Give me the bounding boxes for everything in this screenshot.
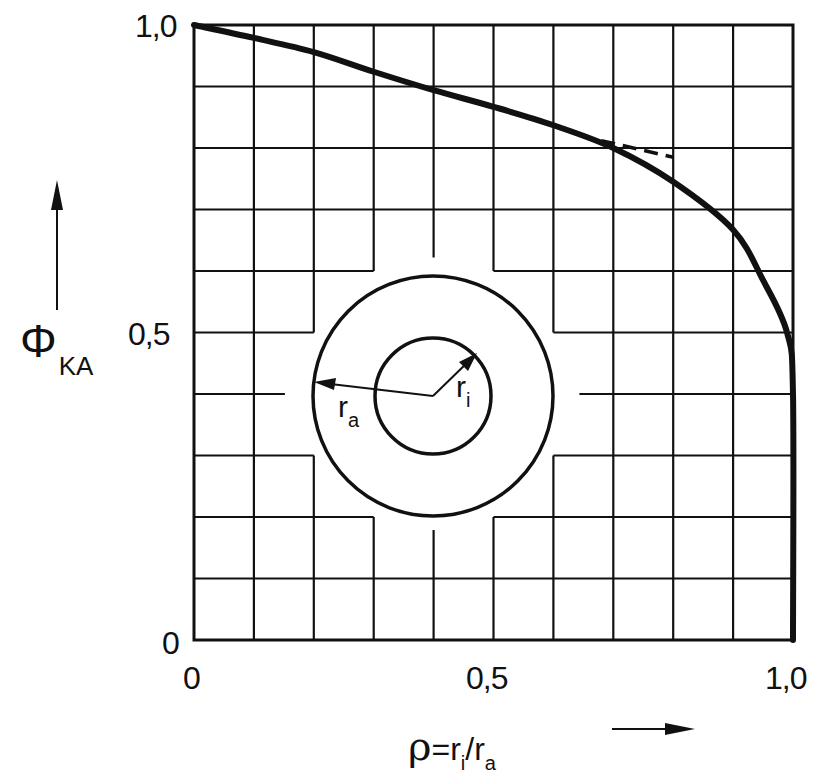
grid-lines: [194, 25, 793, 640]
x-tick-left: 0: [183, 662, 200, 694]
arrow-up-icon: [51, 180, 63, 210]
y-label-sub: KA: [59, 351, 94, 381]
outer-radius-label-sub: a: [348, 409, 359, 431]
x-label-r1: r: [450, 731, 461, 767]
x-label-eq: =: [432, 731, 451, 767]
inner-radius-label-main: r: [456, 370, 466, 403]
x-tick-right: 1,0: [765, 662, 806, 694]
x-axis-arrow: [612, 723, 695, 735]
y-label-main: Φ: [20, 315, 57, 367]
x-label-r2: r: [474, 731, 485, 767]
outer-radius-arrowhead-icon: [314, 378, 336, 390]
y-tick-bottom: 0: [162, 627, 179, 659]
x-axis-label: ρ=ri/ra: [408, 726, 496, 766]
outer-radius-label-main: r: [338, 390, 348, 423]
y-tick-top: 1,0: [135, 10, 176, 42]
x-label-rho: ρ: [408, 723, 432, 769]
outer-radius-label: ra: [338, 392, 359, 422]
inner-radius-label: ri: [456, 372, 470, 402]
x-label-slash: /: [465, 731, 474, 767]
x-tick-mid: 0,5: [466, 662, 507, 694]
y-axis-label: ΦKA: [20, 318, 93, 364]
x-label-sub1: i: [461, 752, 465, 774]
y-axis-arrow: [51, 180, 63, 310]
arrow-right-icon: [665, 723, 695, 735]
x-label-sub2: a: [485, 752, 496, 774]
chart-plot: [0, 0, 829, 784]
inner-radius-label-sub: i: [466, 389, 470, 411]
y-tick-mid: 0,5: [128, 318, 169, 350]
